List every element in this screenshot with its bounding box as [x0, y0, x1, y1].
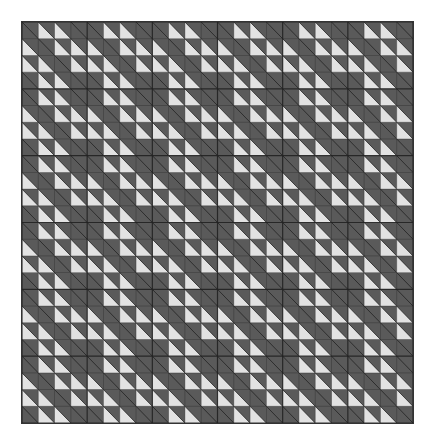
quilt-grid [22, 22, 413, 423]
quilt-pattern [22, 22, 413, 423]
